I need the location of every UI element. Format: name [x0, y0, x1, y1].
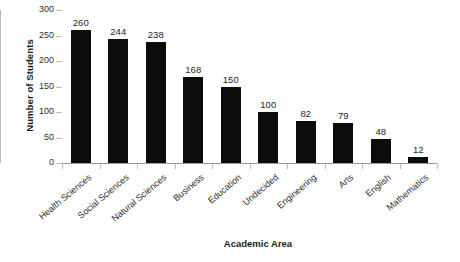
bar [183, 77, 203, 163]
y-tick-mark [56, 10, 62, 11]
bar [408, 157, 428, 163]
y-tick-mark [56, 112, 62, 113]
bar-value-label: 150 [209, 75, 253, 85]
x-category-label: Arts [337, 172, 356, 190]
bar-value-label: 168 [171, 65, 215, 75]
x-tick-mark [175, 164, 176, 169]
bar-value-label: 238 [134, 30, 178, 40]
x-tick-mark [62, 164, 63, 169]
bar [258, 112, 278, 163]
x-category-label: Engineering [275, 172, 318, 211]
x-tick-mark [137, 164, 138, 169]
x-axis-title: Academic Area [0, 238, 460, 249]
y-tick-label: 50 [20, 133, 54, 142]
x-tick-mark [400, 164, 401, 169]
bar [296, 121, 316, 163]
y-tick-label: 250 [20, 31, 54, 40]
y-tick-mark [56, 36, 62, 37]
bar-value-label: 100 [246, 100, 290, 110]
x-tick-mark [100, 164, 101, 169]
x-tick-mark [325, 164, 326, 169]
x-category-label: Education [206, 172, 243, 205]
y-tick-label: 300 [20, 5, 54, 14]
bar [108, 39, 128, 163]
bar-chart: Number of Students 300250200150100500 26… [0, 0, 460, 262]
bar-value-label: 12 [396, 145, 440, 155]
bar [371, 139, 391, 163]
y-tick-mark [56, 138, 62, 139]
y-tick-mark [56, 61, 62, 62]
y-tick-label: 150 [20, 82, 54, 91]
x-tick-mark [287, 164, 288, 169]
bar-value-label: 48 [359, 127, 403, 137]
x-tick-mark [250, 164, 251, 169]
y-tick-label: 0 [20, 158, 54, 167]
bar [221, 87, 241, 164]
y-tick-label: 200 [20, 56, 54, 65]
x-category-label: English [364, 172, 393, 199]
x-tick-mark [362, 164, 363, 169]
bar [146, 42, 166, 163]
bar [71, 30, 91, 163]
y-tick-label: 100 [20, 107, 54, 116]
y-axis-line [0, 10, 1, 163]
x-tick-mark [212, 164, 213, 169]
bar-value-label: 79 [321, 111, 365, 121]
x-tick-mark [437, 164, 438, 169]
x-category-label: Business [171, 172, 205, 203]
y-tick-mark [56, 87, 62, 88]
bar [333, 123, 353, 163]
